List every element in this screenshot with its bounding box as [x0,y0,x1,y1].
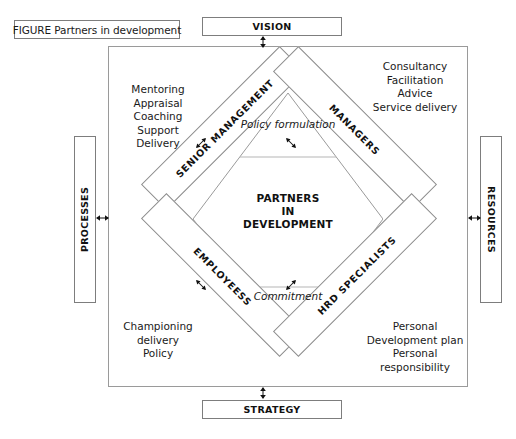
double-arrow-processes-icon [96,213,109,223]
figure-caption: FIGURE Partners in development [14,20,180,39]
external-box-resources-label: RESOURCES [486,186,497,253]
inner-caption-policy-formulation: Policy formulation [213,118,363,131]
figure-canvas: FIGURE Partners in development VISION ST… [0,0,516,439]
external-box-strategy: STRATEGY [202,400,342,419]
center-title: PARTNERS IN DEVELOPMENT [226,192,350,231]
external-box-resources: RESOURCES [480,136,502,303]
external-box-processes-label: PROCESSES [80,187,91,252]
corner-text-top-left: Mentoring Appraisal Coaching Support Del… [112,83,204,151]
external-box-vision: VISION [202,17,342,36]
corner-text-bottom-right: Personal Development plan Personal respo… [365,320,465,374]
external-box-strategy-label: STRATEGY [243,404,300,415]
external-box-vision-label: VISION [252,21,291,32]
double-arrow-strategy-icon [258,387,268,399]
external-box-processes: PROCESSES [74,136,96,303]
bar-cross-arrow-managers-icon [283,135,299,151]
corner-text-bottom-left: Championing delivery Policy [112,320,204,361]
double-arrow-resources-icon [468,213,481,223]
bar-cross-arrow-employees-icon [193,277,209,293]
corner-text-top-right: Consultancy Facilitation Advice Service … [365,60,465,114]
inner-caption-commitment: Commitment [213,290,363,303]
double-arrow-vision-icon [258,36,268,48]
